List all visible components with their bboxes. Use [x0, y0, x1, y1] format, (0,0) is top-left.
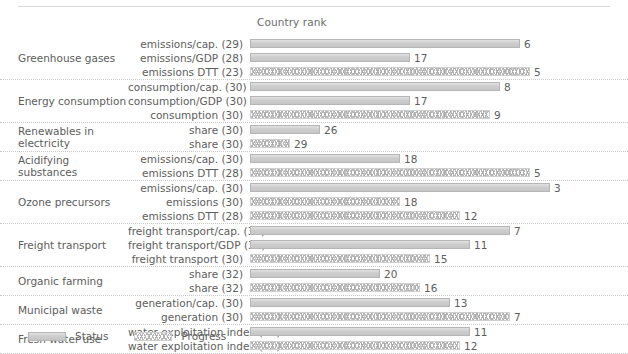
bar-value-label: 3 — [550, 181, 561, 195]
column-header-country-rank: Country rank — [257, 16, 327, 28]
status-bar[interactable] — [250, 226, 510, 235]
group-row-list: generation/cap. (30)13generation (30)7 — [128, 296, 628, 324]
chart-row[interactable]: emissions DTT (28)12 — [128, 209, 628, 223]
row-label: emissions DTT (28) — [128, 167, 250, 179]
bar-area: 12 — [250, 209, 628, 223]
row-label: share (30) — [128, 124, 250, 136]
bar-value-label: 7 — [510, 224, 521, 238]
bar-area: 3 — [250, 181, 628, 195]
bar-area: 11 — [250, 238, 628, 252]
progress-bar[interactable] — [250, 312, 510, 321]
chart-row[interactable]: emissions (30)18 — [128, 195, 628, 209]
chart-row[interactable]: emissions/GDP (28)17 — [128, 51, 628, 65]
progress-bar[interactable] — [250, 197, 400, 206]
group-row-list: share (32)20share (32)16 — [128, 267, 628, 295]
chart-row[interactable]: share (30)26 — [128, 123, 628, 137]
progress-bar[interactable] — [250, 139, 290, 148]
chart-row[interactable]: emissions/cap. (30)18 — [128, 152, 628, 166]
progress-bar[interactable] — [250, 283, 420, 292]
status-bar[interactable] — [250, 125, 320, 134]
chart-row[interactable]: freight transport (30)15 — [128, 252, 628, 266]
legend-label-status: Status — [75, 330, 108, 342]
bar-value-label: 12 — [460, 209, 477, 223]
bar-value-label: 5 — [530, 65, 541, 79]
status-bar[interactable] — [250, 96, 410, 105]
status-bar[interactable] — [250, 298, 450, 307]
group-label: Organic farming — [18, 267, 128, 295]
chart-row[interactable]: freight transport/cap. (30)7 — [128, 224, 628, 238]
bar-area: 7 — [250, 310, 628, 324]
bar-area: 17 — [250, 94, 628, 108]
row-label: emissions/GDP (28) — [128, 52, 250, 64]
row-label: freight transport (30) — [128, 253, 250, 265]
status-bar[interactable] — [250, 82, 500, 91]
bar-value-label: 18 — [400, 195, 417, 209]
bar-value-label: 26 — [320, 123, 337, 137]
bar-area: 5 — [250, 166, 628, 180]
chart-row[interactable]: share (30)29 — [128, 137, 628, 151]
chart-row[interactable]: emissions/cap. (29)6 — [128, 37, 628, 51]
indicator-group: Organic farmingshare (32)20share (32)16 — [0, 267, 628, 296]
bar-area: 26 — [250, 123, 628, 137]
chart-row[interactable]: consumption (30)9 — [128, 108, 628, 122]
chart-row[interactable]: emissions/cap. (30)3 — [128, 181, 628, 195]
chart-row[interactable]: emissions DTT (23)5 — [128, 65, 628, 79]
chart-row[interactable]: generation/cap. (30)13 — [128, 296, 628, 310]
chart-row[interactable]: consumption/cap. (30)8 — [128, 80, 628, 94]
row-label: emissions/cap. (30) — [128, 153, 250, 165]
progress-bar[interactable] — [250, 211, 460, 220]
chart-row[interactable]: consumption/GDP (30)17 — [128, 94, 628, 108]
status-bar[interactable] — [250, 327, 470, 336]
status-bar[interactable] — [250, 53, 410, 62]
indicator-group: Renewables in electricityshare (30)26sha… — [0, 123, 628, 152]
progress-bar[interactable] — [250, 341, 460, 350]
progress-bar[interactable] — [250, 168, 530, 177]
group-label: Ozone precursors — [18, 181, 128, 223]
bar-value-label: 20 — [380, 267, 397, 281]
bar-area: 16 — [250, 281, 628, 295]
bar-area: 20 — [250, 267, 628, 281]
chart-row[interactable]: share (32)20 — [128, 267, 628, 281]
bar-area: 13 — [250, 296, 628, 310]
bar-value-label: 5 — [530, 166, 541, 180]
row-label: share (30) — [128, 138, 250, 150]
status-bar[interactable] — [250, 240, 470, 249]
indicator-group: Acidifying substancesemissions/cap. (30)… — [0, 152, 628, 181]
bar-value-label: 9 — [490, 108, 501, 122]
group-label: Greenhouse gases — [18, 37, 128, 79]
row-label: emissions/cap. (29) — [128, 38, 250, 50]
bar-value-label: 7 — [510, 310, 521, 324]
status-bar[interactable] — [250, 154, 400, 163]
chart-legend: Status Progress — [28, 330, 252, 342]
status-bar[interactable] — [250, 269, 380, 278]
row-label: generation (30) — [128, 311, 250, 323]
status-swatch-icon — [28, 332, 66, 341]
bar-value-label: 17 — [410, 51, 427, 65]
indicator-group: Municipal wastegeneration/cap. (30)13gen… — [0, 296, 628, 325]
legend-label-progress: Progress — [181, 330, 226, 342]
bar-area: 15 — [250, 252, 628, 266]
status-bar[interactable] — [250, 183, 550, 192]
progress-bar[interactable] — [250, 110, 490, 119]
legend-item-progress: Progress — [134, 330, 226, 342]
group-label: Acidifying substances — [18, 152, 128, 180]
progress-bar[interactable] — [250, 67, 530, 76]
indicator-group: Ozone precursorsemissions/cap. (30)3emis… — [0, 181, 628, 224]
row-label: freight transport/GDP (30) — [128, 239, 250, 251]
chart-row[interactable]: freight transport/GDP (30)11 — [128, 238, 628, 252]
bar-value-label: 18 — [400, 152, 417, 166]
chart-row[interactable]: share (32)16 — [128, 281, 628, 295]
bar-value-label: 16 — [420, 281, 437, 295]
bar-value-label: 8 — [500, 80, 511, 94]
chart-row[interactable]: emissions DTT (28)5 — [128, 166, 628, 180]
bar-value-label: 12 — [460, 339, 477, 353]
status-bar[interactable] — [250, 39, 520, 48]
progress-swatch-icon — [134, 332, 172, 341]
bar-area: 8 — [250, 80, 628, 94]
row-label: consumption (30) — [128, 109, 250, 121]
row-label: emissions DTT (28) — [128, 210, 250, 222]
chart-row[interactable]: generation (30)7 — [128, 310, 628, 324]
indicator-group: Freight transportfreight transport/cap. … — [0, 224, 628, 267]
progress-bar[interactable] — [250, 254, 430, 263]
